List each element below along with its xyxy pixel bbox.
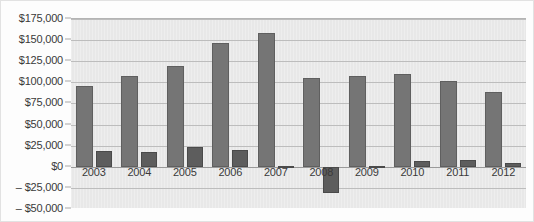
y-axis-tick-label: – $25,000 bbox=[16, 181, 63, 193]
y-axis-tick-mark bbox=[65, 123, 71, 124]
y-axis-tick-label: $75,000 bbox=[25, 96, 63, 108]
plot-area bbox=[71, 18, 526, 208]
bar-series-2-2008 bbox=[323, 167, 339, 193]
y-axis: $175,000$150,000$125,000$100,000$75,000$… bbox=[0, 0, 71, 222]
gridline bbox=[71, 103, 526, 104]
gridline bbox=[71, 146, 526, 147]
bar-series-1-2007 bbox=[258, 33, 275, 166]
bar-series-1-2006 bbox=[212, 43, 229, 167]
bar-series-2-2005 bbox=[187, 147, 203, 166]
bar-series-1-2005 bbox=[167, 66, 184, 166]
y-axis-tick-mark bbox=[65, 60, 71, 61]
y-axis-tick-mark bbox=[65, 144, 71, 145]
bar-series-1-2010 bbox=[394, 74, 411, 167]
gridline bbox=[71, 167, 526, 168]
bar-series-2-2011 bbox=[460, 160, 476, 167]
y-axis-tick-label: $0 bbox=[51, 160, 63, 172]
bar-series-1-2009 bbox=[349, 76, 366, 166]
bar-series-1-2011 bbox=[440, 81, 457, 166]
y-axis-tick-mark bbox=[65, 18, 71, 19]
bar-series-2-2010 bbox=[414, 161, 430, 167]
y-axis-tick-mark bbox=[65, 39, 71, 40]
plot-background-texture bbox=[71, 19, 526, 208]
gridline bbox=[71, 188, 526, 189]
gridline bbox=[71, 61, 526, 62]
bar-series-1-2012 bbox=[485, 92, 502, 167]
bar-series-2-2009 bbox=[369, 166, 385, 168]
bar-series-1-2008 bbox=[303, 78, 320, 167]
y-axis-tick-label: $25,000 bbox=[25, 139, 63, 151]
bar-series-2-2004 bbox=[141, 152, 157, 167]
bar-series-1-2003 bbox=[76, 86, 93, 167]
gridline bbox=[71, 40, 526, 41]
y-axis-tick-mark bbox=[65, 165, 71, 166]
y-axis-tick-label: $175,000 bbox=[19, 12, 63, 24]
bar-series-2-2006 bbox=[232, 150, 248, 167]
bar-series-2-2012 bbox=[505, 163, 521, 167]
gridline bbox=[71, 19, 526, 20]
y-axis-tick-label: – $50,000 bbox=[16, 202, 63, 214]
y-axis-tick-label: $150,000 bbox=[19, 33, 63, 45]
gridline bbox=[71, 82, 526, 83]
y-axis-tick-label: $100,000 bbox=[19, 75, 63, 87]
y-axis-tick-mark bbox=[65, 208, 71, 209]
bar-series-2-2003 bbox=[96, 151, 112, 167]
y-axis-tick-mark bbox=[65, 81, 71, 82]
y-axis-tick-mark bbox=[65, 186, 71, 187]
y-axis-tick-label: $125,000 bbox=[19, 54, 63, 66]
y-axis-tick-label: $50,000 bbox=[25, 118, 63, 130]
bar-series-2-2007 bbox=[278, 166, 294, 168]
bar-chart: $175,000$150,000$125,000$100,000$75,000$… bbox=[0, 0, 534, 222]
y-axis-tick-mark bbox=[65, 102, 71, 103]
gridline bbox=[71, 125, 526, 126]
bar-series-1-2004 bbox=[121, 76, 138, 167]
